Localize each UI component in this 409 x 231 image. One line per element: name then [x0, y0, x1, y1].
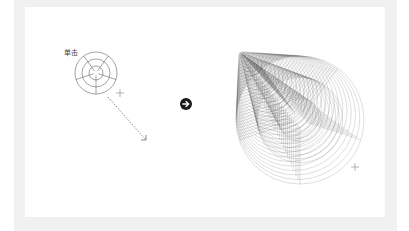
swept-polar-grid-after [236, 52, 364, 184]
click-label: 单击 [64, 50, 78, 57]
diagram-canvas [0, 0, 409, 231]
crosshair-cursor-end-icon [351, 163, 359, 171]
polar-grid-before [75, 52, 117, 94]
arrow-right-circle-icon [180, 98, 192, 110]
crosshair-cursor-icon [116, 89, 124, 97]
drag-arrow-icon [108, 97, 146, 140]
